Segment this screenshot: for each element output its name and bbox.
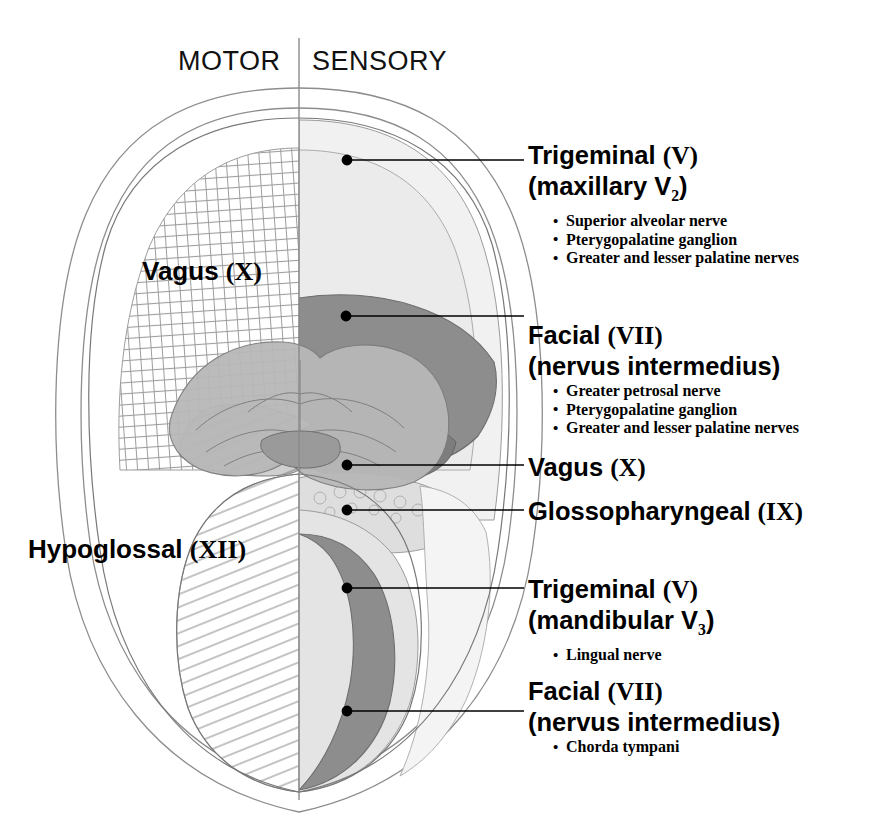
bullet-item: Greater and lesser palatine nerves: [528, 419, 799, 438]
callout-bullets: Greater petrosal nerve Pterygopalatine g…: [528, 382, 799, 438]
callout-nerve-name: Trigeminal: [528, 575, 656, 603]
callout-nerve-numeral: (VII): [607, 321, 662, 350]
callout-subtitle: (mandibular V3): [528, 605, 714, 645]
callout-title: Trigeminal (V): [528, 140, 799, 171]
callout-facial-vii-greater-petrosal: Facial (VII) (nervus intermedius) Greate…: [528, 320, 799, 438]
callout-subtitle-prefix: (maxillary V: [528, 172, 671, 200]
callout-trigeminal-v2: Trigeminal (V) (maxillary V2) Superior a…: [528, 140, 799, 268]
bullet-item: Pterygopalatine ganglion: [528, 231, 799, 250]
callout-subtitle-suffix: ): [679, 172, 688, 200]
callout-title: Glossopharyngeal (IX): [528, 496, 803, 527]
callout-vagus-x: Vagus (X): [528, 452, 646, 483]
callout-nerve-numeral: (VII): [607, 677, 662, 706]
callout-facial-vii-chorda-tympani: Facial (VII) (nervus intermedius) Chorda…: [528, 676, 780, 757]
callout-subtitle-suffix: ): [706, 606, 715, 634]
callout-subtitle-prefix: (mandibular V: [528, 606, 698, 634]
callout-title: Facial (VII): [528, 676, 780, 707]
callout-nerve-name: Facial: [528, 677, 600, 705]
callout-nerve-numeral: (IX): [758, 497, 803, 526]
bullet-item: Pterygopalatine ganglion: [528, 401, 799, 420]
callout-subtitle: (nervus intermedius): [528, 707, 780, 737]
bullet-item: Lingual nerve: [528, 646, 714, 665]
callout-nerve-name: Trigeminal: [528, 141, 656, 169]
bullet-item: Superior alveolar nerve: [528, 212, 799, 231]
callout-nerve-name: Facial: [528, 321, 600, 349]
callout-nerve-name: Glossopharyngeal: [528, 497, 750, 525]
callout-nerve-name: Vagus: [528, 453, 603, 481]
callout-bullets: Chorda tympani: [528, 738, 780, 757]
bullet-item: Chorda tympani: [528, 738, 780, 757]
bullet-item: Greater and lesser palatine nerves: [528, 249, 799, 268]
callout-trigeminal-v3: Trigeminal (V) (mandibular V3) Lingual n…: [528, 574, 714, 665]
callout-subtitle-subscript: 3: [698, 606, 706, 635]
callout-subtitle: (maxillary V2): [528, 171, 799, 211]
callout-title: Trigeminal (V): [528, 574, 714, 605]
callout-nerve-numeral: (V): [663, 575, 698, 604]
callout-subtitle-subscript: 2: [671, 172, 679, 201]
callout-title: Vagus (X): [528, 452, 646, 483]
callout-nerve-numeral: (X): [610, 453, 645, 482]
callout-subtitle: (nervus intermedius): [528, 351, 799, 381]
callout-glossopharyngeal-ix: Glossopharyngeal (IX): [528, 496, 803, 527]
callout-nerve-numeral: (V): [663, 141, 698, 170]
callout-bullets: Lingual nerve: [528, 646, 714, 665]
callout-bullets: Superior alveolar nerve Pterygopalatine …: [528, 212, 799, 268]
callout-list: Trigeminal (V) (maxillary V2) Superior a…: [0, 0, 888, 832]
callout-title: Facial (VII): [528, 320, 799, 351]
bullet-item: Greater petrosal nerve: [528, 382, 799, 401]
